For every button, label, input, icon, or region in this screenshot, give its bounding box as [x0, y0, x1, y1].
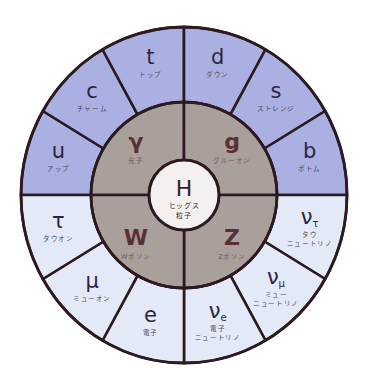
- boson-symbol: W: [124, 225, 148, 250]
- boson-name: 光子: [128, 156, 143, 165]
- quark-name: ストレンジ: [257, 105, 295, 113]
- quark-name: ダウン: [206, 70, 229, 79]
- higgs-name-line1: ヒッグス: [169, 201, 199, 210]
- higgs-symbol: H: [176, 176, 193, 201]
- quark-name: ボトム: [298, 165, 321, 173]
- lepton-name: ミューオン: [73, 295, 111, 303]
- lepton-symbol-index: τ: [312, 218, 318, 229]
- quark-name: トップ: [139, 71, 162, 79]
- lepton-symbol-index: μ: [279, 278, 286, 289]
- boson-symbol: Z: [224, 225, 240, 250]
- lepton-name-line2: ニュートリノ: [253, 300, 299, 308]
- lepton-symbol-index: e: [220, 312, 226, 323]
- boson-name: Zボソン: [218, 253, 246, 261]
- quark-name: アップ: [47, 165, 70, 173]
- lepton-label-3: e電子: [143, 303, 158, 337]
- boson-symbol: g: [224, 129, 240, 154]
- boson-name: グルーオン: [213, 156, 251, 165]
- lepton-name-line2: ニュートリノ: [195, 334, 241, 342]
- particle-wheel-diagram: Standard Model particles H ヒッグス 粒子 uアップc…: [0, 0, 368, 386]
- boson-symbol: γ: [128, 129, 143, 154]
- boson-label-0: γ光子: [128, 129, 143, 165]
- higgs-core: H ヒッグス 粒子: [149, 160, 219, 230]
- lepton-name: 電子: [143, 329, 158, 337]
- lepton-symbol: μ: [85, 269, 98, 293]
- quark-symbol: c: [86, 79, 98, 103]
- lepton-symbol: e: [144, 303, 157, 327]
- boson-name: Wボソン: [121, 253, 151, 261]
- lepton-name: ミュー: [265, 291, 288, 299]
- lepton-symbol: τ: [52, 209, 65, 233]
- higgs-name-line2: 粒子: [176, 211, 191, 220]
- quark-symbol: d: [211, 45, 224, 69]
- lepton-name: タウ: [302, 230, 317, 239]
- quark-name: チャーム: [77, 105, 107, 113]
- quark-symbol: b: [303, 139, 316, 163]
- lepton-name: 電子: [210, 325, 225, 333]
- lepton-name: タウオン: [43, 234, 73, 243]
- quark-symbol: s: [270, 79, 281, 103]
- boson-label-3: WWボソン: [121, 225, 151, 261]
- quark-symbol: u: [52, 139, 65, 163]
- quark-symbol: t: [146, 45, 154, 69]
- lepton-name-line2: ニュートリノ: [287, 240, 333, 248]
